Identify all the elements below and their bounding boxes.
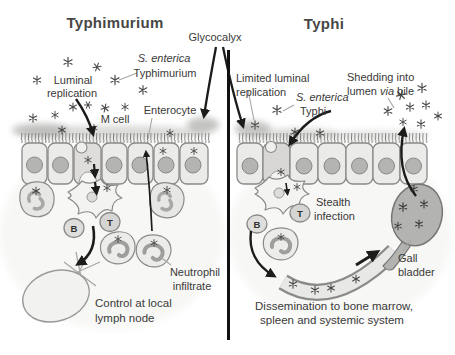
limited-replication-label: Limited luminal — [236, 72, 309, 84]
control-lymph-node-label: lymph node — [95, 312, 154, 324]
b-cell-letter: B — [71, 223, 78, 234]
right-microvilli — [237, 133, 428, 143]
shedding-word: lumen — [347, 85, 377, 97]
limited-replication-label: replication — [236, 86, 286, 98]
infection-pathway-diagram: Typhimurium Typhi Glycocalyx Luminal rep… — [0, 0, 455, 355]
enterocyte-label: Enterocyte — [144, 104, 197, 116]
dissemination-label: spleen and systemic system — [260, 314, 404, 326]
s-enterica-typhimurium-label: S. enterica — [138, 52, 191, 64]
control-lymph-node-label: Control at local — [95, 297, 172, 309]
arrow-to-dendritic — [95, 182, 97, 193]
stealth-infection-label: infection — [314, 210, 355, 222]
gall-bladder-label: bladder — [398, 266, 435, 278]
shedding-label: Shedding into — [347, 71, 414, 83]
s-enterica-typhi-label: Typhi — [300, 105, 326, 117]
arrow-glycocalyx-left — [204, 47, 216, 116]
luminal-replication-label: replication — [47, 87, 97, 99]
t-cell-letter: T — [297, 208, 303, 219]
dissemination-label: Dissemination to bone marrow, — [255, 300, 413, 312]
stealth-infection-label: Stealth — [316, 196, 350, 208]
neutrophil-infiltrate-label: Neutrophil — [170, 266, 220, 278]
s-enterica-typhi-label: S. enterica — [296, 91, 349, 103]
neutrophil-infiltrate-label: infiltrate — [173, 280, 212, 292]
gall-bladder-label: Gall — [398, 252, 418, 264]
m-cell-vesicle — [76, 142, 87, 153]
left-panel-title: Typhimurium — [66, 14, 163, 31]
shedding-word: bile — [397, 85, 414, 97]
glycocalyx-label: Glycocalyx — [188, 31, 242, 43]
diagram-canvas: Typhimurium Typhi Glycocalyx Luminal rep… — [0, 0, 455, 355]
luminal-replication-label: Luminal — [54, 74, 93, 86]
neutrophil — [263, 228, 298, 260]
m-cell-vesicle — [266, 142, 277, 153]
m-cell-label: M cell — [101, 113, 130, 125]
left-epithelium — [20, 133, 210, 184]
right-epithelium — [237, 133, 428, 184]
shedding-label: lumenviabile — [347, 85, 414, 97]
right-panel-title: Typhi — [304, 15, 344, 32]
t-cell-letter: T — [107, 217, 113, 228]
b-cell-letter: B — [254, 219, 261, 230]
s-enterica-typhimurium-label: Typhimurium — [134, 67, 197, 79]
left-microvilli — [20, 133, 210, 143]
arrow-mcell-transcytosis — [94, 164, 95, 176]
shedding-word-via: via — [380, 85, 394, 97]
